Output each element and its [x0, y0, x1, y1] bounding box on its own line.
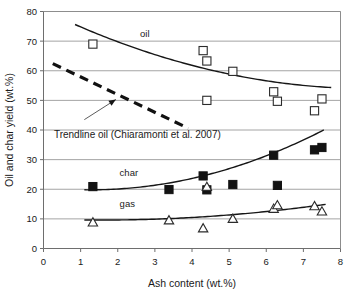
marker-char [199, 172, 207, 180]
trendline-annotation-group [53, 64, 189, 129]
gridlines-group [44, 12, 341, 219]
trendline-oil-dashed [53, 64, 189, 129]
marker-oil [310, 107, 318, 115]
series-markers-oil [89, 40, 326, 115]
y-tick-label-40: 40 [26, 124, 37, 135]
marker-char [229, 180, 237, 188]
y-tick-label-0: 0 [32, 243, 37, 254]
fit-curve-oil [75, 25, 331, 88]
marker-char [318, 143, 326, 151]
series-label-oil: oil [140, 28, 150, 39]
marker-gas [164, 216, 173, 224]
series-label-gas: gas [120, 198, 136, 209]
y-axis-title: Oil and char yield (wt.%) [3, 73, 15, 187]
marker-oil [203, 96, 211, 104]
marker-char [165, 185, 173, 193]
y-tick-label-50: 50 [26, 95, 37, 106]
x-tick-label-2: 2 [115, 256, 120, 267]
annotation-text-group: Trendline oil (Chiaramonti et al. 2007) [54, 129, 221, 140]
marker-char [89, 182, 97, 190]
x-tick-label-6: 6 [264, 256, 269, 267]
x-tick-label-3: 3 [152, 256, 157, 267]
y-tick-label-60: 60 [26, 65, 37, 76]
marker-char [270, 151, 278, 159]
x-tick-label-1: 1 [78, 256, 83, 267]
x-tick-label-7: 7 [301, 256, 306, 267]
trendline-annotation-text: Trendline oil (Chiaramonti et al. 2007) [54, 129, 221, 140]
marker-oil [199, 47, 207, 55]
x-tick-label-4: 4 [189, 256, 194, 267]
y-tick-labels-group: 01020304050607080 [26, 6, 37, 254]
x-tick-label-0: 0 [41, 256, 46, 267]
scatter-chart-svg: 01020304050607080 012345678 oilchargas T… [0, 0, 352, 296]
y-tick-label-10: 10 [26, 213, 37, 224]
x-tick-label-8: 8 [338, 256, 343, 267]
marker-gas [198, 224, 207, 232]
y-tick-label-70: 70 [26, 36, 37, 47]
marker-oil [89, 40, 97, 48]
x-axis-title: Ash content (wt.%) [148, 277, 236, 289]
marker-oil [229, 67, 237, 75]
chart-figure: 01020304050607080 012345678 oilchargas T… [0, 0, 352, 296]
series-label-char: char [120, 167, 138, 178]
marker-oil [318, 95, 326, 103]
y-tick-label-20: 20 [26, 184, 37, 195]
x-tick-labels-group: 012345678 [41, 256, 343, 267]
marker-char [273, 181, 281, 189]
marker-oil [203, 57, 211, 65]
series-labels-group: oilchargas [120, 28, 150, 209]
y-tick-label-80: 80 [26, 6, 37, 17]
x-tick-label-5: 5 [226, 256, 231, 267]
y-tick-label-30: 30 [26, 154, 37, 165]
marker-oil [273, 97, 281, 105]
marker-oil [270, 88, 278, 96]
